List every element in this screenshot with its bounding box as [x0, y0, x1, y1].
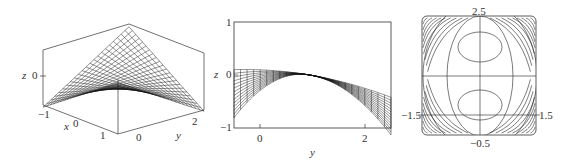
surface-y-label: y: [175, 129, 181, 141]
projection-y-tick-0: 0: [257, 132, 263, 144]
projection-curves: [234, 70, 391, 135]
surface-x-tick-0: 0: [73, 117, 79, 129]
surface-z-label: z: [21, 69, 27, 81]
contour-bottom-label: −0.5: [470, 137, 490, 149]
projection-z-label: z: [213, 68, 219, 80]
contour-plot: [418, 1, 540, 151]
projection-z-tick-1: 1: [226, 16, 232, 28]
projection-yz-plot: [234, 22, 391, 135]
surface-z-tick-0: 0: [32, 69, 38, 81]
contour-left-label: −1.5: [401, 109, 421, 121]
contour-top-label: 2.5: [472, 5, 486, 17]
surface-x-tick-1: 1: [100, 129, 106, 141]
contour-right-label: 1.5: [539, 109, 553, 121]
surface-x-tick-neg1: −1: [38, 108, 50, 120]
projection-z-tick-0: 0: [226, 68, 232, 80]
projection-z-tick-neg1: −1: [220, 121, 232, 133]
surface-x-label: x: [63, 120, 69, 132]
figure-canvas: z 0 −1 x 0 1 0 y 2 1 z 0 −1 0 2 y 2.5 −0…: [0, 0, 570, 161]
surface-y-tick-0: 0: [136, 131, 142, 143]
contour-frame: [422, 16, 536, 135]
surface-y-tick-2: 2: [192, 115, 198, 127]
surface-3d-plot: [43, 24, 204, 134]
surface-mesh: [43, 27, 204, 111]
projection-y-tick-2: 2: [362, 132, 368, 144]
projection-y-label: y: [309, 146, 315, 158]
